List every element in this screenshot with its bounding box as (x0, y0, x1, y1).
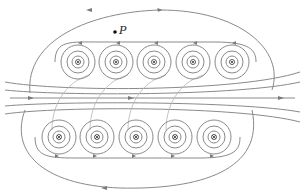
cross-symbol-icon (134, 135, 139, 140)
central-field-lines (5, 72, 300, 122)
magnetic-field-diagram (0, 0, 306, 196)
field-arrows (28, 8, 284, 190)
dot-symbol-icon (230, 60, 235, 65)
point-p-marker (113, 30, 117, 34)
cross-symbol-icon (57, 135, 62, 140)
point-p-label: P (119, 24, 126, 37)
outer-loop-bottom (21, 110, 253, 188)
dot-symbol-icon (152, 60, 157, 65)
cross-symbol-icon (212, 135, 217, 140)
dot-symbol-icon (76, 60, 81, 65)
dot-symbol-icon (114, 60, 119, 65)
cross-symbol-icon (95, 135, 100, 140)
dot-symbol-icon (191, 60, 196, 65)
cross-symbol-icon (173, 135, 178, 140)
